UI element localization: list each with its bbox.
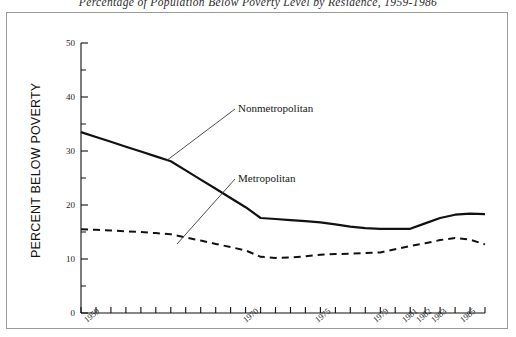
- y-tick-label-20: 20: [66, 200, 76, 210]
- y-tick-label-10: 10: [66, 254, 76, 264]
- y-axis-title: PERCENT BELOW POVERTY: [29, 82, 43, 258]
- leader-line-metropolitan: [177, 179, 235, 244]
- x-tick-label-1970: 1970: [241, 306, 260, 325]
- y-axis-minor-ticks: [81, 70, 86, 286]
- leader-line-nonmetropolitan: [166, 109, 235, 161]
- annotation-nonmetropolitan: Nonmetropolitan: [238, 102, 314, 114]
- x-tick-label-1979: 1979: [371, 306, 390, 325]
- x-tick-label-1985: 1985: [458, 306, 477, 325]
- y-tick-label-30: 30: [66, 146, 76, 156]
- figure-title: Percentage of Population Below Poverty L…: [0, 0, 516, 8]
- x-tick-label-1959: 1959: [82, 306, 101, 325]
- series-line-metropolitan: [81, 229, 485, 258]
- x-tick-label-1983: 1983: [429, 306, 448, 325]
- y-tick-label-0: 0: [71, 308, 76, 318]
- annotation-metropolitan: Metropolitan: [238, 172, 296, 184]
- chart-frame: 0 10 20 30 40 50 PERCENT BELOW POVERTY 1…: [6, 12, 508, 329]
- poverty-line-chart: 0 10 20 30 40 50 PERCENT BELOW POVERTY 1…: [7, 13, 509, 330]
- x-tick-label-1975: 1975: [313, 306, 332, 325]
- y-tick-label-50: 50: [66, 38, 76, 48]
- y-tick-label-40: 40: [66, 92, 76, 102]
